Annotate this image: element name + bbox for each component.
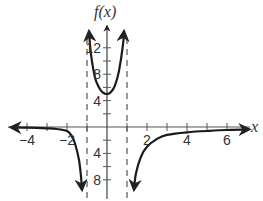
x-tick-label: 6 [223, 132, 231, 148]
tick-labels: −4−2246128448 [19, 40, 231, 188]
x-axis-label: x [250, 118, 258, 135]
y-tick-label: 4 [93, 93, 101, 109]
y-tick-label: 4 [93, 145, 101, 161]
y-axis-label: f(x) [94, 3, 116, 21]
right-branch-curve [134, 129, 249, 189]
function-curves [11, 31, 249, 189]
x-tick-label: 4 [183, 132, 191, 148]
function-graph: −4−2246128448 x f(x) [0, 0, 263, 201]
y-tick-label: 8 [93, 172, 101, 188]
x-tick-label: −4 [19, 132, 35, 148]
y-tick-label: 8 [93, 66, 101, 82]
y-tick-label: 12 [85, 40, 101, 56]
x-tick-label: −2 [59, 132, 75, 148]
axes [8, 26, 250, 199]
x-tick-label: 2 [143, 132, 151, 148]
